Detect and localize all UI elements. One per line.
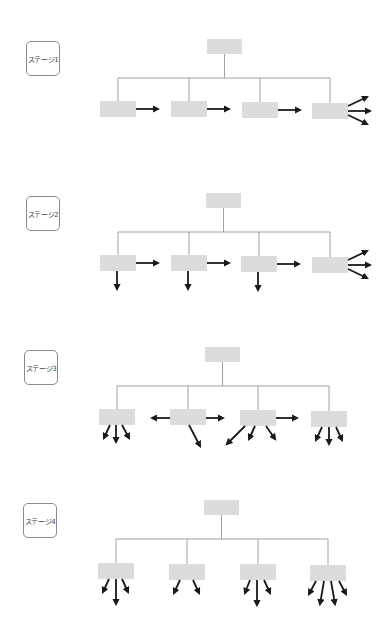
child-node-4 (312, 257, 348, 273)
child-node-1 (100, 255, 136, 271)
child-node-2 (171, 101, 207, 117)
arrow-icon (339, 581, 346, 594)
tree-diagram-canvas (0, 0, 383, 629)
stage-4-tree (98, 500, 346, 605)
arrow-icon (336, 427, 342, 440)
child-node-1 (99, 409, 135, 425)
arrow-icon (189, 425, 200, 446)
stage-1-tree (100, 39, 370, 124)
stage-2-tree (100, 193, 370, 290)
arrow-icon (320, 581, 324, 604)
arrow-icon (331, 581, 335, 604)
root-node (205, 347, 240, 362)
child-node-4 (310, 565, 346, 581)
arrow-icon (103, 579, 109, 592)
arrow-icon (122, 579, 128, 592)
arrow-icon (104, 425, 110, 438)
arrow-icon (193, 580, 199, 593)
child-node-1 (100, 101, 136, 117)
root-node (204, 500, 239, 515)
arrow-icon (309, 581, 316, 594)
arrow-icon (174, 580, 180, 593)
stage-3-tree (99, 347, 347, 446)
arrow-icon (122, 425, 129, 438)
arrow-icon (316, 427, 322, 440)
child-node-2 (169, 564, 205, 580)
root-node (206, 193, 241, 208)
child-node-2 (170, 409, 206, 425)
root-node (207, 39, 242, 54)
arrow-icon (348, 251, 367, 260)
child-node-4 (312, 103, 348, 119)
child-node-2 (171, 255, 207, 271)
arrow-icon (227, 426, 245, 444)
arrow-icon (266, 426, 275, 439)
child-node-3 (240, 410, 276, 426)
child-node-3 (242, 102, 278, 118)
arrow-icon (264, 580, 270, 593)
arrow-icon (249, 426, 255, 439)
child-node-3 (240, 564, 276, 580)
arrow-icon (348, 115, 367, 124)
child-node-1 (98, 563, 134, 579)
arrow-icon (245, 580, 250, 593)
child-node-3 (241, 256, 277, 272)
arrow-icon (348, 269, 367, 278)
arrow-icon (348, 97, 367, 106)
child-node-4 (311, 411, 347, 427)
